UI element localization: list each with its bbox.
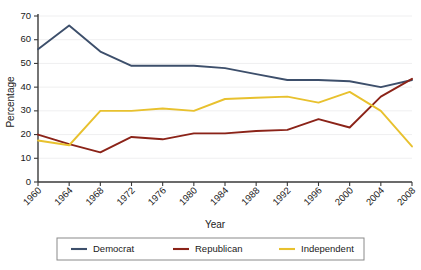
x-tick-label: 1988 [239,185,262,208]
legend-label-democrat: Democrat [93,243,135,254]
x-tick-label: 1992 [270,185,293,208]
gridlines [38,16,412,158]
y-tick-label: 30 [20,104,31,115]
x-axis-title: Year [205,219,226,230]
y-axis: 010203040506070 [20,10,38,187]
x-tick-label: 2000 [332,185,355,208]
y-tick-label: 50 [20,57,31,68]
y-tick-label: 60 [20,33,31,44]
x-tick-label: 2004 [364,185,387,208]
series-line-democrat [38,25,412,87]
line-chart: 010203040506070 196019641968197219761980… [0,0,421,270]
legend-label-independent: Independent [301,243,354,254]
x-tick-label: 1960 [21,185,44,208]
y-tick-label: 0 [26,176,31,187]
chart-svg: 010203040506070 196019641968197219761980… [0,0,421,270]
x-tick-label: 1980 [177,185,200,208]
x-tick-label: 1968 [83,185,106,208]
x-tick-label: 1984 [208,185,231,208]
y-tick-label: 40 [20,81,31,92]
y-tick-label: 70 [20,10,31,21]
y-tick-label: 20 [20,128,31,139]
legend: DemocratRepublicanIndependent [57,238,364,260]
x-tick-label: 1996 [301,185,324,208]
x-tick-label: 1964 [52,185,75,208]
x-tick-label: 1972 [114,185,137,208]
y-axis-title: Percentage [5,76,16,128]
x-axis: 1960196419681972197619801984198819921996… [21,182,418,207]
legend-label-republican: Republican [195,243,243,254]
x-tick-label: 2008 [395,185,418,208]
x-tick-label: 1976 [145,185,168,208]
y-tick-label: 10 [20,152,31,163]
series-lines [38,25,412,152]
series-line-independent [38,92,412,147]
series-line-republican [38,79,412,153]
